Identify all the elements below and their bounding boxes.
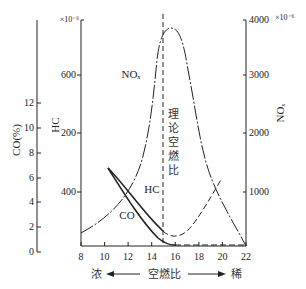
nox-curve-label: NOₓ xyxy=(121,68,141,80)
hc-tick: 400 xyxy=(61,186,76,197)
co-axis: 0 2 4 6 8 10 12 CO(%) xyxy=(10,20,41,257)
x-tick: 16 xyxy=(170,251,180,262)
x-tick: 14 xyxy=(147,251,157,262)
nox-tick: 4000 xyxy=(249,14,269,25)
co-tick: 12 xyxy=(24,97,34,108)
nox-unit: ×10⁻⁶ xyxy=(275,13,295,22)
arrow-right-icon xyxy=(218,271,226,277)
hc-axis-title: HC xyxy=(49,117,61,132)
x-axis-title: 空燃比 xyxy=(148,267,181,281)
nox-axis-title: NOₓ xyxy=(274,103,286,123)
hc-axis: 600 200 400 ×10⁻⁶ HC xyxy=(49,15,84,246)
co-tick: 8 xyxy=(29,147,34,158)
x-tick: 12 xyxy=(123,251,133,262)
emissions-vs-air-fuel-chart: 0 2 4 6 8 10 12 CO(%) 600 200 400 ×10⁻⁶ … xyxy=(0,0,306,289)
co-tick: 10 xyxy=(24,122,34,133)
x-tick: 18 xyxy=(194,251,204,262)
hc-tick: 200 xyxy=(61,127,76,138)
arrow-left-icon xyxy=(106,271,114,277)
rich-label: 浓 xyxy=(91,268,102,281)
x-tick: 8 xyxy=(79,251,84,262)
x-axis: 8 10 12 14 16 18 20 22 浓 空燃比 稀 xyxy=(79,242,252,281)
stoich-char: 论 xyxy=(168,121,179,135)
x-tick: 20 xyxy=(217,251,227,262)
stoich-char: 理 xyxy=(168,108,179,121)
lean-label: 稀 xyxy=(231,268,242,281)
hc-curve xyxy=(108,168,163,231)
stoich-char: 空 xyxy=(168,135,179,149)
x-tick: 10 xyxy=(100,251,110,262)
nox-axis: 4000 3000 2000 1000 ×10⁻⁶ NOₓ xyxy=(243,13,295,246)
nox-tick: 3000 xyxy=(249,69,269,80)
co-axis-title: CO(%) xyxy=(10,124,23,156)
stoichiometric-line: 理 论 空 燃 比 xyxy=(163,14,179,246)
co-tick: 6 xyxy=(29,172,34,183)
co-tick: 0 xyxy=(29,246,34,257)
stoich-char: 比 xyxy=(168,164,179,177)
hc-curve-label: HC xyxy=(144,183,159,195)
hc-lean-curve xyxy=(163,178,222,236)
nox-tick: 1000 xyxy=(249,186,269,197)
hc-tick: 600 xyxy=(61,69,76,80)
hc-unit: ×10⁻⁶ xyxy=(60,15,80,24)
co-tick: 4 xyxy=(29,196,34,207)
x-tick: 22 xyxy=(241,251,251,262)
stoich-char: 燃 xyxy=(168,149,179,163)
co-tick: 2 xyxy=(29,221,34,232)
co-curve-label: CO xyxy=(119,209,134,221)
nox-tick: 2000 xyxy=(249,127,269,138)
